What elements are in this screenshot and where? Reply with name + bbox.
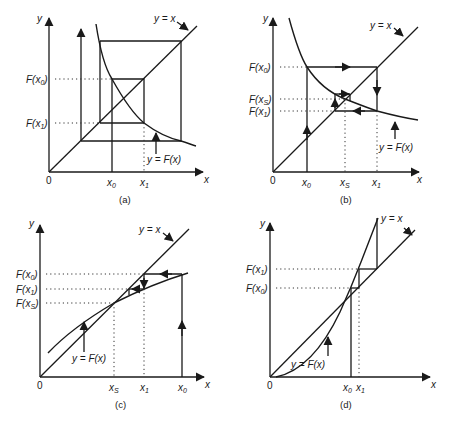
axis-label-x: x [203,174,210,185]
svg-text:x: x [204,379,211,390]
identity-line [270,230,415,377]
svg-text:x1: x1 [139,382,149,394]
cobweb-inner [100,79,144,172]
svg-text:(d): (d) [340,399,352,410]
caption: (a) [119,194,131,205]
svg-text:y = F(x): y = F(x) [71,353,106,364]
identity-line [49,26,197,172]
svg-text:y = x: y = x [369,20,392,31]
svg-text:xS: xS [339,177,350,189]
panel-c: y x 0 xS x1 x0 F(x0) F(x1) F(xS) y = x y… [16,218,211,410]
svg-text:x0: x0 [106,177,116,189]
svg-text:xS: xS [108,382,119,394]
svg-text:x1: x1 [355,382,365,394]
svg-text:F(x0): F(x0) [16,269,38,281]
svg-text:(c): (c) [115,399,126,410]
svg-text:F(xS): F(xS) [249,94,271,106]
svg-text:y = x: y = x [138,224,161,235]
curve-F [48,273,188,353]
identity-label: y = x [153,13,176,24]
svg-text:x1: x1 [139,177,149,189]
svg-text:y: y [28,218,35,229]
svg-text:0: 0 [270,175,276,186]
svg-text:F(x1): F(x1) [249,106,271,118]
panel-b: y x 0 x0 xS x1 F(x0) F(xS) F(x1) y = x y… [249,13,423,205]
svg-text:x: x [416,174,423,185]
svg-text:y = F(x): y = F(x) [290,359,325,370]
svg-text:F(x0): F(x0) [246,283,268,295]
svg-text:0: 0 [267,380,273,391]
svg-text:y: y [259,218,266,229]
svg-text:F(x1): F(x1) [26,118,48,130]
svg-text:F(x1): F(x1) [16,284,38,296]
cobweb-figure: y x 0 x0 x1 F(x0) F(x1) y = x y = F(x) (… [0,0,450,423]
panel-d: y x 0 x0 x1 F(x1) F(x0) y = x y = F(x) (… [246,213,437,410]
curve-F [276,218,378,377]
curve-F [289,18,418,120]
svg-text:F(x0): F(x0) [26,74,48,86]
svg-text:x0: x0 [342,382,352,394]
svg-text:y: y [262,13,269,24]
svg-text:x1: x1 [371,177,381,189]
axis-label-y: y [36,13,43,24]
svg-text:y = F(x): y = F(x) [378,142,413,153]
svg-text:F(xS): F(xS) [16,298,38,310]
svg-text:x0: x0 [177,382,187,394]
svg-text:0: 0 [37,380,43,391]
svg-text:y = x: y = x [380,213,403,224]
svg-text:x0: x0 [301,177,311,189]
svg-text:F(x0): F(x0) [249,62,271,74]
origin-label: 0 [46,175,52,186]
svg-text:x: x [430,379,437,390]
curve-label: y = F(x) [146,154,181,165]
svg-text:F(x1): F(x1) [246,264,268,276]
svg-text:(b): (b) [340,194,352,205]
panel-a: y x 0 x0 x1 F(x0) F(x1) y = x y = F(x) (… [26,13,210,205]
